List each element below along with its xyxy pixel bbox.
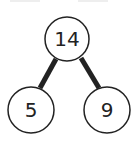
- connector-left: [40, 59, 56, 88]
- part-value-left: 5: [25, 98, 38, 122]
- part-node-left: 5: [8, 87, 54, 133]
- part-value-right: 9: [101, 98, 114, 122]
- whole-value: 14: [54, 27, 79, 51]
- number-bond-diagram: 14 5 9: [0, 0, 140, 141]
- connector-right: [81, 58, 99, 88]
- part-node-right: 9: [84, 87, 130, 133]
- whole-node: 14: [45, 17, 89, 61]
